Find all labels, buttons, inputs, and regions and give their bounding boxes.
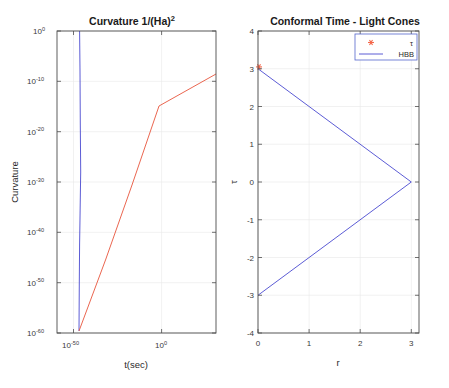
ytick-m4: -4 bbox=[247, 329, 255, 338]
ytick-1: 10-10 bbox=[27, 76, 44, 87]
ytick-2: 2 bbox=[250, 103, 255, 112]
ytick-4: 4 bbox=[250, 27, 255, 36]
xtick-0: 10-50 bbox=[62, 340, 79, 351]
light-cones-panel: Conformal Time - Light Cones bbox=[225, 0, 449, 388]
light-cones-ylabel: τ bbox=[228, 180, 239, 184]
curvature-svg: Curvature 1/(Ha)2 bbox=[0, 0, 225, 388]
legend-label-tau: τ bbox=[410, 39, 413, 48]
ytick-m2: -2 bbox=[247, 254, 255, 263]
ytick-2: 10-20 bbox=[27, 126, 44, 137]
curvature-ylabel: Curvature bbox=[9, 161, 20, 203]
curvature-panel: Curvature 1/(Ha)2 bbox=[0, 0, 225, 388]
light-cones-svg: Conformal Time - Light Cones bbox=[225, 0, 449, 388]
xtick-0: 0 bbox=[256, 339, 261, 348]
light-cones-legend[interactable]: τ HBB bbox=[355, 34, 417, 60]
ytick-3: 10-30 bbox=[27, 177, 44, 188]
ytick-m1: -1 bbox=[247, 216, 255, 225]
ytick-3: 3 bbox=[250, 65, 255, 74]
ytick-5: 10-50 bbox=[27, 277, 44, 288]
legend-label-hbb: HBB bbox=[399, 50, 414, 59]
light-cones-title: Conformal Time - Light Cones bbox=[270, 15, 420, 27]
xtick-1: 1 bbox=[307, 339, 312, 348]
matlab-figure: Curvature 1/(Ha)2 bbox=[0, 0, 449, 388]
light-cones-x-ticklabels: 0 1 2 3 bbox=[256, 339, 414, 348]
ytick-4: 10-40 bbox=[27, 227, 44, 238]
curvature-title: Curvature 1/(Ha)2 bbox=[89, 14, 175, 27]
light-cones-xlabel: r bbox=[336, 357, 339, 368]
ytick-0: 0 bbox=[250, 178, 255, 187]
xtick-1: 100 bbox=[155, 340, 167, 351]
ytick-6: 10-60 bbox=[27, 328, 44, 339]
ytick-0: 100 bbox=[33, 26, 45, 37]
xtick-2: 2 bbox=[358, 339, 363, 348]
curvature-x-ticklabels: 10-50 100 bbox=[62, 340, 167, 351]
ytick-m3: -3 bbox=[247, 291, 255, 300]
xtick-3: 3 bbox=[409, 339, 414, 348]
ytick-1: 1 bbox=[250, 140, 255, 149]
light-cones-y-ticklabels: 4 3 2 1 0 -1 -2 -3 -4 bbox=[247, 27, 255, 338]
curvature-y-ticklabels: 100 10-10 10-20 10-30 10-40 10-50 10-60 bbox=[27, 26, 45, 339]
curvature-xlabel: t(sec) bbox=[124, 359, 148, 370]
